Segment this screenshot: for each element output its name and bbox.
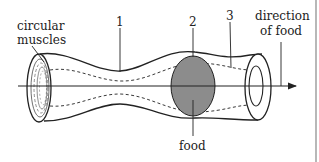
label-direction: direction (255, 9, 310, 23)
label-of-food: of food (260, 24, 302, 38)
label-circular: circular (17, 19, 65, 33)
peristalsis-diagram: circular muscles 1 2 3 direction of food… (0, 0, 319, 162)
label-2: 2 (189, 15, 197, 29)
label-muscles: muscles (17, 33, 66, 47)
label-food: food (179, 139, 206, 153)
lumen-bottom-dashed (50, 94, 252, 112)
lumen-top-dashed (50, 63, 252, 81)
circular-muscles-end (27, 54, 51, 122)
leader-3 (230, 22, 231, 68)
tube-right-end (245, 54, 271, 120)
tube-outer-top (40, 52, 262, 72)
label-3: 3 (226, 9, 234, 23)
tube-outer-bottom (44, 104, 258, 121)
label-1: 1 (116, 15, 124, 29)
